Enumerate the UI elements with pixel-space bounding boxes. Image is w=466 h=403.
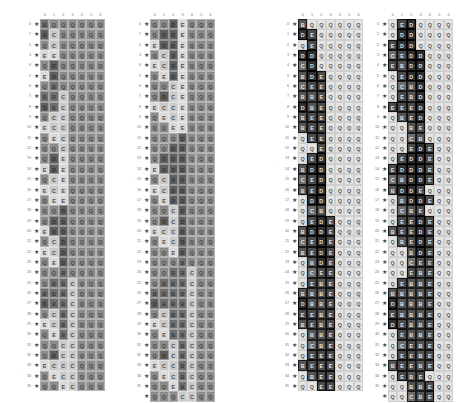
- grid-cell[interactable]: Q: [335, 226, 344, 236]
- grid-cell[interactable]: Q: [68, 40, 77, 50]
- grid-cell[interactable]: E: [317, 81, 326, 91]
- grid-cell[interactable]: Q: [434, 340, 443, 350]
- grid-cell[interactable]: E: [425, 236, 434, 246]
- grid-cell[interactable]: Q: [68, 102, 77, 112]
- grid-cell[interactable]: D: [407, 60, 416, 70]
- grid-cell[interactable]: Q: [434, 350, 443, 360]
- grid-cell[interactable]: Q: [354, 205, 363, 215]
- grid-cell[interactable]: D: [178, 205, 187, 215]
- grid-cell[interactable]: E: [425, 216, 434, 226]
- grid-cell[interactable]: Q: [444, 185, 453, 195]
- grid-cell[interactable]: Q: [326, 143, 335, 153]
- grid-cell[interactable]: Q: [77, 350, 86, 360]
- grid-cell[interactable]: Q: [425, 205, 434, 215]
- grid-cell[interactable]: Q: [196, 29, 205, 39]
- grid-cell[interactable]: C: [169, 216, 178, 226]
- grid-cell[interactable]: Q: [444, 71, 453, 81]
- grid-cell[interactable]: Q: [196, 50, 205, 60]
- grid-cell[interactable]: Q: [425, 133, 434, 143]
- grid-cell[interactable]: Q: [150, 91, 159, 101]
- grid-cell[interactable]: Q: [159, 205, 168, 215]
- grid-cell[interactable]: Q: [96, 236, 105, 246]
- grid-cell[interactable]: B: [416, 350, 425, 360]
- grid-cell[interactable]: Q: [96, 185, 105, 195]
- grid-cell[interactable]: Q: [425, 19, 434, 29]
- grid-cell[interactable]: E: [397, 226, 406, 236]
- grid-cell[interactable]: B: [298, 91, 307, 101]
- grid-cell[interactable]: Q: [388, 257, 397, 267]
- grid-cell[interactable]: Q: [196, 143, 205, 153]
- grid-cell[interactable]: E: [307, 319, 316, 329]
- grid-cell[interactable]: Q: [425, 102, 434, 112]
- grid-cell[interactable]: D: [416, 153, 425, 163]
- grid-cell[interactable]: E: [425, 340, 434, 350]
- grid-cell[interactable]: B: [49, 288, 58, 298]
- grid-cell[interactable]: E: [178, 102, 187, 112]
- grid-cell[interactable]: Q: [68, 185, 77, 195]
- grid-cell[interactable]: B: [298, 185, 307, 195]
- grid-cell[interactable]: E: [317, 360, 326, 370]
- grid-cell[interactable]: B: [298, 360, 307, 370]
- grid-cell[interactable]: B: [178, 288, 187, 298]
- grid-cell[interactable]: B: [49, 298, 58, 308]
- grid-cell[interactable]: Q: [344, 278, 353, 288]
- grid-cell[interactable]: D: [416, 174, 425, 184]
- grid-cell[interactable]: B: [416, 360, 425, 370]
- grid-cell[interactable]: Q: [68, 19, 77, 29]
- grid-cell[interactable]: Q: [68, 226, 77, 236]
- grid-cell[interactable]: D: [407, 50, 416, 60]
- grid-cell[interactable]: D: [416, 226, 425, 236]
- grid-cell[interactable]: B: [397, 60, 406, 70]
- grid-cell[interactable]: Q: [388, 216, 397, 226]
- grid-cell[interactable]: D: [416, 236, 425, 246]
- grid-cell[interactable]: Q: [40, 205, 49, 215]
- grid-cell[interactable]: Q: [40, 236, 49, 246]
- grid-cell[interactable]: Q: [86, 112, 95, 122]
- grid-cell[interactable]: B: [178, 298, 187, 308]
- grid-cell[interactable]: Q: [77, 288, 86, 298]
- grid-cell[interactable]: Q: [344, 102, 353, 112]
- grid-cell[interactable]: Q: [68, 71, 77, 81]
- grid-cell[interactable]: Q: [326, 29, 335, 39]
- grid-cell[interactable]: E: [317, 133, 326, 143]
- grid-cell[interactable]: Q: [96, 164, 105, 174]
- grid-cell[interactable]: B: [169, 319, 178, 329]
- grid-cell[interactable]: C: [159, 319, 168, 329]
- grid-cell[interactable]: D: [407, 164, 416, 174]
- grid-cell[interactable]: Q: [444, 216, 453, 226]
- grid-cell[interactable]: Q: [96, 71, 105, 81]
- grid-cell[interactable]: Q: [68, 122, 77, 132]
- grid-cell[interactable]: Q: [68, 153, 77, 163]
- grid-cell[interactable]: Q: [335, 174, 344, 184]
- grid-cell[interactable]: Q: [40, 153, 49, 163]
- grid-cell[interactable]: C: [169, 112, 178, 122]
- grid-cell[interactable]: Q: [354, 329, 363, 339]
- grid-cell[interactable]: Q: [444, 391, 453, 401]
- grid-cell[interactable]: Q: [49, 381, 58, 391]
- grid-cell[interactable]: Q: [196, 298, 205, 308]
- grid-cell[interactable]: Q: [326, 71, 335, 81]
- grid-cell[interactable]: Q: [388, 71, 397, 81]
- grid-cell[interactable]: Q: [49, 19, 58, 29]
- grid-cell[interactable]: C: [169, 236, 178, 246]
- grid-cell[interactable]: Q: [206, 81, 215, 91]
- grid-cell[interactable]: C: [59, 350, 68, 360]
- grid-cell[interactable]: Q: [86, 40, 95, 50]
- grid-cell[interactable]: D: [159, 350, 168, 360]
- grid-cell[interactable]: Q: [77, 174, 86, 184]
- grid-cell[interactable]: Q: [96, 29, 105, 39]
- grid-cell[interactable]: Q: [196, 340, 205, 350]
- grid-cell[interactable]: Q: [444, 205, 453, 215]
- grid-cell[interactable]: Q: [354, 153, 363, 163]
- grid-cell[interactable]: B: [388, 288, 397, 298]
- grid-cell[interactable]: Q: [397, 391, 406, 401]
- grid-cell[interactable]: Q: [77, 278, 86, 288]
- grid-cell[interactable]: Q: [354, 122, 363, 132]
- grid-cell[interactable]: D: [169, 40, 178, 50]
- grid-cell[interactable]: Q: [159, 257, 168, 267]
- grid-cell[interactable]: Q: [150, 350, 159, 360]
- grid-cell[interactable]: E: [150, 360, 159, 370]
- grid-cell[interactable]: D: [416, 50, 425, 60]
- grid-cell[interactable]: Q: [444, 319, 453, 329]
- grid-cell[interactable]: B: [317, 340, 326, 350]
